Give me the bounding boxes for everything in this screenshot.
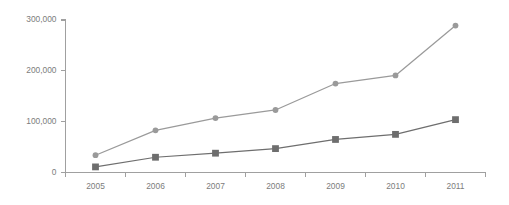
x-axis-tick-labels: 2005200620072008200920102011: [86, 181, 465, 191]
data-point-marker: [453, 23, 459, 29]
data-point-marker: [452, 116, 459, 123]
y-axis-tick-label: 0: [52, 167, 57, 177]
chart-series: [92, 23, 459, 171]
data-point-marker: [152, 154, 159, 161]
x-axis-tick-label: 2009: [326, 181, 345, 191]
data-point-marker: [153, 127, 159, 133]
data-point-marker: [92, 164, 99, 171]
data-point-marker: [93, 152, 99, 158]
data-point-marker: [333, 81, 339, 87]
y-axis-tick-label: 200,000: [26, 65, 57, 75]
line-chart: 0100,000200,000300,000 20052006200720082…: [0, 0, 509, 205]
data-point-marker: [332, 136, 339, 143]
data-point-marker: [213, 115, 219, 121]
data-point-marker: [273, 107, 279, 113]
y-axis-tick-labels: 0100,000200,000300,000: [26, 14, 57, 177]
x-axis-tick-label: 2010: [386, 181, 405, 191]
x-axis-tick-label: 2008: [266, 181, 285, 191]
series-square: [92, 116, 459, 170]
y-axis-tick-label: 100,000: [26, 116, 57, 126]
x-axis-tick-label: 2007: [206, 181, 225, 191]
series-line: [96, 120, 456, 167]
x-axis-tick-label: 2006: [146, 181, 165, 191]
x-axis-tick-label: 2005: [86, 181, 105, 191]
data-point-marker: [392, 131, 399, 138]
data-point-marker: [212, 150, 219, 157]
data-point-marker: [393, 73, 399, 79]
series-circle: [93, 23, 459, 158]
y-axis-tick-label: 300,000: [26, 14, 57, 24]
chart-canvas: 0100,000200,000300,000 20052006200720082…: [0, 0, 509, 205]
series-line: [96, 26, 456, 156]
x-axis-tick-label: 2011: [446, 181, 464, 191]
data-point-marker: [272, 145, 279, 152]
chart-axes: [61, 20, 486, 177]
